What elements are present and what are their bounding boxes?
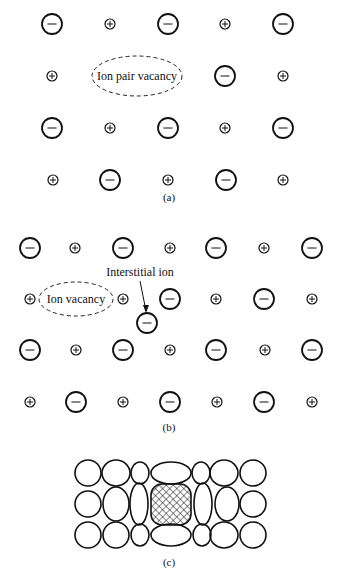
cation-icon [220, 19, 230, 29]
cation-icon [118, 294, 128, 304]
anion-icon [158, 14, 178, 34]
cation-icon [260, 345, 270, 355]
anion-icon [302, 340, 322, 360]
cation-icon [105, 19, 115, 29]
anion-icon [254, 392, 274, 412]
anion-icon [273, 118, 293, 138]
cation-icon [25, 294, 35, 304]
cation-icon [163, 175, 173, 185]
anion-icon [113, 238, 133, 258]
ion-pair-vacancy-label: Ion pair vacancy [97, 69, 177, 83]
cation-icon [25, 397, 35, 407]
anion-icon [113, 340, 133, 360]
anion-icon [302, 238, 322, 258]
caption-c: (c) [163, 556, 176, 569]
anion-icon [160, 289, 180, 309]
anion-icon [158, 118, 178, 138]
interstitial-ion-label: Interstitial ion [106, 265, 174, 279]
cation-icon [278, 175, 288, 185]
caption-b: (b) [163, 421, 176, 434]
anion-icon [100, 170, 120, 190]
cation-icon [118, 397, 128, 407]
cation-icon [220, 123, 230, 133]
panel-c-lattice [75, 460, 266, 548]
cation-icon [165, 345, 175, 355]
cation-icon [278, 71, 288, 81]
anion-icon [273, 14, 293, 34]
caption-a: (a) [163, 191, 176, 204]
anion-icon [20, 238, 40, 258]
anion-icon [254, 289, 274, 309]
cation-icon [165, 243, 175, 253]
ion-vacancy-label: Ion vacancy [47, 292, 105, 306]
hatched-defect-region [151, 484, 191, 525]
cation-icon [47, 71, 57, 81]
anion-icon [206, 238, 226, 258]
defect-diagram: Ion pair vacancy (a) Ion vacancy Interst… [0, 0, 337, 576]
anion-icon [160, 392, 180, 412]
anion-icon [215, 66, 235, 86]
anion-icon [20, 340, 40, 360]
anion-icon [216, 170, 236, 190]
cation-icon [211, 294, 221, 304]
cation-icon [307, 294, 317, 304]
arrow-head-icon [143, 305, 149, 313]
anion-icon [42, 14, 62, 34]
cation-icon [71, 345, 81, 355]
cation-icon [307, 397, 317, 407]
anion-icon [42, 118, 62, 138]
cation-icon [259, 243, 269, 253]
anion-icon [66, 392, 86, 412]
cation-icon [70, 243, 80, 253]
cation-icon [105, 123, 115, 133]
cation-icon [48, 175, 58, 185]
panel-a-ions [42, 14, 293, 190]
anion-icon [206, 340, 226, 360]
anion-icon [137, 313, 157, 333]
cation-icon [212, 397, 222, 407]
